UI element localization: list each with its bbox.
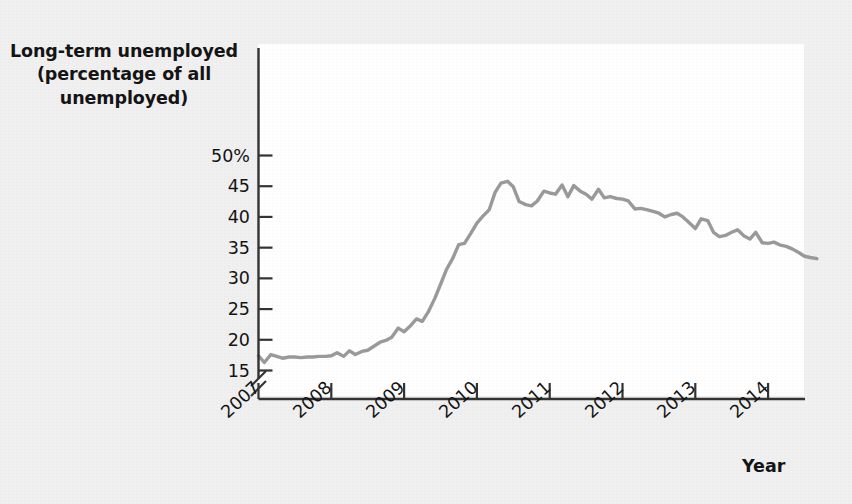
x-axis-tick-label: 2013 (653, 377, 699, 422)
x-axis-tick-label: 2014 (726, 377, 772, 422)
x-axis-tick-label: 2011 (508, 377, 554, 422)
x-axis-tick-label: 2010 (435, 377, 481, 422)
chart-figure: Long-term unemployed (percentage of all … (0, 0, 852, 504)
x-axis-tick-label: 2008 (289, 377, 335, 422)
x-axis-tick-label: 2007 (217, 377, 263, 422)
x-axis-tick-labels: 20072008200920102011201220132014 (0, 0, 852, 504)
x-axis-tick-label: 2012 (581, 377, 627, 422)
x-axis-title: Year (742, 456, 785, 476)
x-axis-tick-label: 2009 (362, 377, 408, 422)
